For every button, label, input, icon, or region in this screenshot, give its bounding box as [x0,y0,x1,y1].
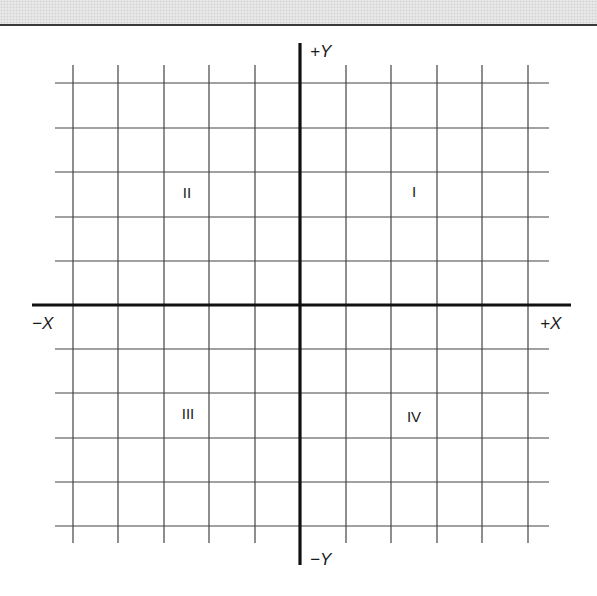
y-positive-label: +Y [310,43,331,60]
x-positive-label: +X [540,315,561,332]
quadrant-4-label: IV [407,409,421,424]
quadrant-2-label: II [183,185,191,200]
quadrant-3-label: III [182,406,195,421]
axes [32,43,571,565]
x-negative-label: −X [32,315,53,332]
quadrant-1-label: I [412,184,416,199]
coordinate-plane [0,0,597,596]
y-negative-label: −Y [310,551,331,568]
